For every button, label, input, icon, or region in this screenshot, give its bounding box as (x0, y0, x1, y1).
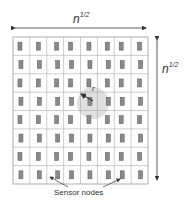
sensor-node (106, 61, 110, 69)
sensor-node (56, 171, 60, 179)
sensor-node (105, 42, 109, 50)
sensor-node (18, 152, 22, 160)
sensor-node (56, 61, 60, 69)
sensor-node (106, 171, 110, 179)
sensor-node (37, 61, 41, 69)
sensor-node (138, 79, 142, 87)
sensor-node (18, 116, 22, 124)
sensor-node (87, 152, 91, 160)
sensor-node (55, 116, 59, 124)
sensor-node (139, 97, 143, 105)
sensor-node (87, 42, 91, 50)
sensor-node (19, 61, 23, 69)
sensor-node (18, 79, 22, 87)
sensor-node (69, 42, 73, 50)
sensor-node (105, 116, 109, 124)
sensor-node (36, 152, 40, 160)
sensor-node (119, 152, 123, 160)
sensor-node (19, 134, 23, 142)
sensor-node (120, 97, 124, 105)
sensor-node (19, 171, 23, 179)
sensor-node (70, 97, 74, 105)
sensor-grid-diagram (0, 0, 189, 210)
sensor-node (69, 79, 73, 87)
sensor-node (37, 171, 41, 179)
grid (13, 37, 148, 184)
sensor-node (105, 152, 109, 160)
sensor-node (138, 116, 142, 124)
sensor-node (55, 42, 59, 50)
sensor-node (120, 61, 124, 69)
sensor-node (37, 97, 41, 105)
sensor-node (87, 79, 91, 87)
sensor-node (139, 61, 143, 69)
sensor-node (36, 79, 40, 87)
sensor-node (88, 61, 92, 69)
sensor-node (120, 134, 124, 142)
sensor-node (138, 152, 142, 160)
sensor-node (119, 116, 123, 124)
sensor-node (106, 134, 110, 142)
sensor-node (88, 171, 92, 179)
sensor-node (70, 171, 74, 179)
sensor-node (55, 79, 59, 87)
caption-sensor-nodes: Sensor nodes (54, 188, 103, 197)
sensor-node (69, 116, 73, 124)
sensor-node (36, 116, 40, 124)
sensor-node (70, 61, 74, 69)
sensor-node (19, 97, 23, 105)
sensor-node (105, 79, 109, 87)
sensor-node (138, 42, 142, 50)
sensor-node (69, 152, 73, 160)
sensor-node (56, 97, 60, 105)
radius-label: r (92, 84, 95, 93)
sensor-node (119, 42, 123, 50)
sensor-node (55, 152, 59, 160)
sensor-node (139, 171, 143, 179)
sensor-node (106, 97, 110, 105)
sensor-node (18, 42, 22, 50)
sensor-node (56, 134, 60, 142)
sensor-node (36, 42, 40, 50)
sensor-node (88, 134, 92, 142)
sensor-node (70, 134, 74, 142)
pointer-right (103, 179, 120, 187)
sensor-node (87, 116, 91, 124)
sensor-node (37, 134, 41, 142)
right-dimension-label: n1/2 (162, 62, 178, 76)
sensor-node (139, 134, 143, 142)
top-dimension-label: n1/2 (73, 12, 89, 26)
sensor-node (120, 171, 124, 179)
sensor-node (119, 79, 123, 87)
